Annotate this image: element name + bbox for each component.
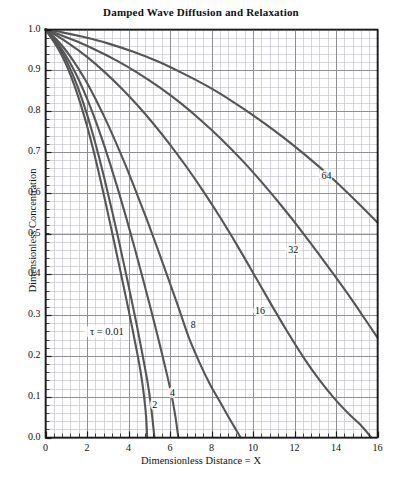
y-tick-label: 0.2: [1, 349, 41, 360]
curve-label-16: 16: [253, 305, 267, 316]
y-tick-label: 0.9: [1, 63, 41, 74]
x-tick-label: 12: [275, 442, 315, 453]
chart-figure: Damped Wave Diffusion and Relaxation 024…: [0, 0, 402, 477]
curve-label--0.01: τ = 0.01: [85, 325, 129, 338]
x-axis-title: Dimensionless Distance = X: [0, 455, 402, 466]
y-tick-label: 0.1: [1, 390, 41, 401]
x-tick-label: 10: [233, 442, 273, 453]
x-tick-label: 14: [316, 442, 356, 453]
y-tick-label: 0.0: [1, 431, 41, 442]
plot-area: [0, 0, 402, 477]
x-tick-label: 16: [358, 442, 398, 453]
curve-label-2: 2: [150, 399, 159, 410]
x-tick-label: 4: [109, 442, 149, 453]
curve-label-4: 4: [168, 387, 177, 398]
curve-label-8: 8: [189, 319, 198, 330]
curve-label-32: 32: [286, 244, 300, 255]
x-tick-label: 8: [192, 442, 232, 453]
y-tick-label: 1.0: [1, 23, 41, 34]
x-tick-label: 0: [26, 442, 66, 453]
x-tick-label: 2: [67, 442, 107, 453]
y-axis-title: Dimensionless Concentration: [27, 111, 38, 351]
x-tick-label: 6: [150, 442, 190, 453]
